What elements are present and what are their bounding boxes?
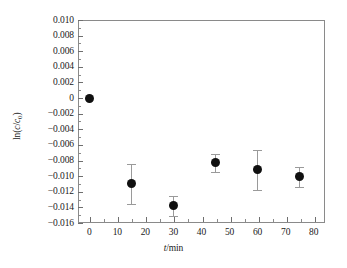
y-axis-tick-label: 0.006 [53, 46, 74, 56]
x-axis-minor-tick [188, 219, 189, 222]
x-axis-minor-tick [245, 219, 246, 222]
y-axis-tick [78, 223, 83, 224]
y-axis-tick [78, 20, 83, 21]
x-axis-minor-tick [217, 219, 218, 222]
x-axis-minor-tick [273, 219, 274, 222]
y-axis-tick-label: −0.004 [48, 124, 74, 134]
x-axis-tick [203, 217, 204, 222]
y-axis-minor-tick [78, 121, 81, 122]
y-axis-minor-tick [78, 106, 81, 107]
x-axis-title: t/min [0, 243, 347, 253]
x-axis-tick [90, 217, 91, 222]
error-bar-cap [253, 190, 262, 191]
y-axis-tick [78, 207, 83, 208]
x-axis-minor-tick [301, 219, 302, 222]
y-axis-tick-label: −0.014 [48, 202, 74, 212]
y-axis-minor-tick [78, 215, 81, 216]
y-axis-tick [78, 145, 83, 146]
error-bar-cap [169, 196, 178, 197]
x-axis-tick-label: 80 [299, 227, 329, 238]
x-axis-tick-label: 10 [102, 227, 132, 238]
error-bar-cap [211, 172, 220, 173]
y-axis-tick-label: −0.002 [48, 108, 74, 118]
x-axis-minor-tick [160, 219, 161, 222]
x-axis-tick-label: 0 [74, 227, 104, 238]
x-axis-minor-tick [104, 219, 105, 222]
y-axis-tick-label: −0.012 [48, 186, 74, 196]
y-axis-tick [78, 98, 83, 99]
y-axis-tick [78, 67, 83, 68]
y-axis-tick [78, 129, 83, 130]
x-axis-tick [315, 217, 316, 222]
y-axis-tick-label: −0.006 [48, 139, 74, 149]
y-axis-tick-label: 0.010 [53, 15, 74, 25]
y-axis-tick [78, 192, 83, 193]
x-axis-tick-label: 70 [271, 227, 301, 238]
y-axis-tick [78, 114, 83, 115]
y-axis-minor-tick [78, 43, 81, 44]
x-axis-tick [118, 217, 119, 222]
y-axis-tick [78, 36, 83, 37]
chart-figure: 0.0100.0080.0060.0040.0020−0.002−0.004−0… [0, 0, 347, 268]
y-axis-minor-tick [78, 200, 81, 201]
x-axis-tick-label: 20 [130, 227, 160, 238]
data-point [85, 94, 94, 103]
y-axis-tick-label: −0.016 [48, 218, 74, 228]
y-axis-title: ln(c/c0) [12, 86, 26, 166]
y-axis-minor-tick [78, 59, 81, 60]
y-axis-minor-tick [78, 168, 81, 169]
plot-area [78, 20, 325, 223]
error-bar-cap [127, 204, 136, 205]
x-axis-tick-label: 60 [243, 227, 273, 238]
error-bar-cap [211, 154, 220, 155]
y-axis-tick-label: 0.008 [53, 30, 74, 40]
y-axis-tick-label: −0.008 [48, 155, 74, 165]
y-axis-minor-tick [78, 184, 81, 185]
x-axis-tick [146, 217, 147, 222]
y-axis-tick-label: 0.002 [53, 77, 74, 87]
y-axis-tick [78, 51, 83, 52]
x-axis-tick [287, 217, 288, 222]
x-axis-minor-tick [132, 219, 133, 222]
y-axis-minor-tick [78, 28, 81, 29]
error-bar-cap [127, 164, 136, 165]
error-bar-cap [295, 167, 304, 168]
y-axis-minor-tick [78, 153, 81, 154]
error-bar-cap [169, 216, 178, 217]
x-axis-tick-label: 50 [215, 227, 245, 238]
y-axis-tick [78, 161, 83, 162]
y-axis-tick-label: 0.004 [53, 61, 74, 71]
y-axis-minor-tick [78, 75, 81, 76]
x-axis-tick [231, 217, 232, 222]
y-axis-minor-tick [78, 137, 81, 138]
x-axis-tick [174, 217, 175, 222]
x-axis-tick [259, 217, 260, 222]
y-axis-tick [78, 176, 83, 177]
y-axis-minor-tick [78, 90, 81, 91]
y-axis-tick-label: −0.010 [48, 171, 74, 181]
x-axis-tick-label: 40 [187, 227, 217, 238]
error-bar-cap [253, 150, 262, 151]
x-axis-tick-label: 30 [158, 227, 188, 238]
y-axis-tick [78, 82, 83, 83]
y-axis-tick-label: 0 [69, 93, 74, 103]
error-bar-cap [295, 187, 304, 188]
